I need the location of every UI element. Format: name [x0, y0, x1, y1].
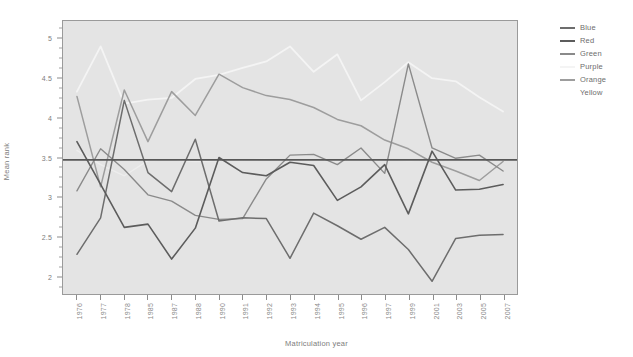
y-tick-label: 2.5 [42, 234, 52, 241]
legend-item-purple[interactable]: Purple [560, 60, 630, 73]
x-tick-mark [385, 295, 386, 300]
x-tick-mark [361, 295, 362, 300]
x-tick-label: 1992 [266, 303, 273, 319]
series-line-green [77, 64, 503, 220]
x-axis-title-wrap: Matriculation year [0, 339, 519, 351]
x-tick-label: 1999 [408, 303, 415, 319]
y-tick-label: 3 [48, 194, 52, 201]
x-tick-label: 1994 [313, 303, 320, 319]
x-tick-label: 1976 [76, 303, 83, 319]
series-line-orange [77, 74, 503, 187]
y-tick-label: 4 [48, 114, 52, 121]
legend-label: Yellow [580, 88, 603, 97]
legend-swatch-purple-icon [560, 66, 575, 68]
x-tick-label: 1996 [361, 303, 368, 319]
chart-legend: BlueRedGreenPurpleOrangeYellow [560, 21, 630, 99]
legend-swatch-green-icon [560, 53, 575, 55]
series-line-purple [77, 46, 503, 111]
x-tick-mark [480, 295, 481, 300]
legend-item-yellow[interactable]: Yellow [560, 86, 630, 99]
x-tick-mark [504, 295, 505, 300]
legend-label: Blue [580, 23, 596, 32]
y-tick-label: 5 [48, 34, 52, 41]
legend-item-green[interactable]: Green [560, 47, 630, 60]
x-tick-label: 1997 [385, 303, 392, 319]
x-tick-mark [242, 295, 243, 300]
x-tick-mark [195, 295, 196, 300]
y-tick-label: 3.5 [42, 154, 52, 161]
legend-swatch-orange-icon [560, 79, 575, 81]
legend-item-orange[interactable]: Orange [560, 73, 630, 86]
x-tick-mark [409, 295, 410, 300]
plot-area [62, 20, 518, 295]
legend-item-red[interactable]: Red [560, 34, 630, 47]
x-tick-label: 2005 [480, 303, 487, 319]
x-tick-mark [171, 295, 172, 300]
x-tick-mark [100, 295, 101, 300]
x-axis-title: Matriculation year [0, 339, 633, 348]
x-tick-mark [456, 295, 457, 300]
x-tick-mark [124, 295, 125, 300]
legend-label: Green [580, 49, 602, 58]
x-tick-label: 2001 [432, 303, 439, 319]
x-tick-label: 1977 [99, 303, 106, 319]
x-tick-label: 1978 [123, 303, 130, 319]
legend-swatch-yellow-icon [560, 92, 575, 94]
legend-swatch-red-icon [560, 40, 575, 42]
x-tick-mark [290, 295, 291, 300]
x-tick-label: 2007 [504, 303, 511, 319]
x-tick-label: 1995 [337, 303, 344, 319]
x-tick-label: 1985 [147, 303, 154, 319]
x-tick-mark [76, 295, 77, 300]
x-tick-mark [314, 295, 315, 300]
x-tick-label: 2003 [456, 303, 463, 319]
legend-label: Orange [580, 75, 606, 84]
x-tick-label: 1991 [242, 303, 249, 319]
x-tick-mark [433, 295, 434, 300]
line-chart-figure: Mean rank 22.533.544.55 1976197719781985… [0, 0, 633, 357]
x-tick-label: 1987 [171, 303, 178, 319]
x-tick-label: 1988 [194, 303, 201, 319]
legend-swatch-blue-icon [560, 27, 575, 29]
x-tick-label: 1990 [218, 303, 225, 319]
x-tick-mark [219, 295, 220, 300]
y-axis: Mean rank 22.533.544.55 [0, 0, 62, 357]
x-tick-mark [147, 295, 148, 300]
legend-item-blue[interactable]: Blue [560, 21, 630, 34]
legend-label: Purple [580, 62, 603, 71]
x-tick-label: 1993 [290, 303, 297, 319]
x-tick-mark [338, 295, 339, 300]
x-tick-mark [266, 295, 267, 300]
legend-label: Red [580, 36, 594, 45]
y-tick-label: 2 [48, 274, 52, 281]
y-axis-title: Mean rank [2, 143, 11, 180]
y-tick-label: 4.5 [42, 74, 52, 81]
plot-lines [63, 21, 517, 294]
